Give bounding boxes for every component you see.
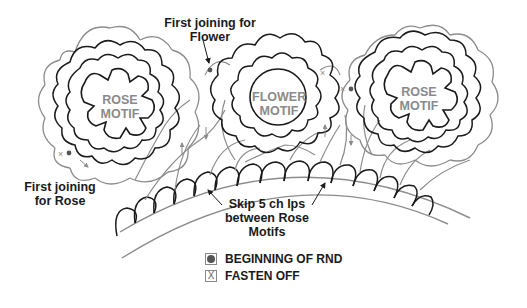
first-joining-rose-label: First joining for Rose bbox=[20, 180, 100, 208]
legend-item-beginning: BEGINNING OF RND bbox=[205, 250, 342, 267]
x-mark-icon: X bbox=[205, 270, 217, 282]
right-rose-label: ROSE MOTIF bbox=[393, 85, 445, 113]
arrow-diag-icon bbox=[80, 160, 88, 167]
beginning-of-round-marker-left bbox=[67, 151, 72, 156]
first-joining-flower-label: First joining for Flower bbox=[150, 16, 270, 44]
fasten-off-mark-right: × bbox=[340, 84, 345, 94]
skip-loops-label: Skip 5 ch lps between Rose Motifs bbox=[222, 197, 312, 239]
legend-item-fasten-off: X FASTEN OFF bbox=[205, 267, 342, 284]
flower-label: FLOWER MOTIF bbox=[252, 90, 306, 118]
fasten-off-mark-flower: × bbox=[320, 68, 325, 78]
leader-skip-left bbox=[208, 190, 222, 205]
left-rose-label: ROSE MOTIF bbox=[95, 93, 145, 121]
fasten-off-mark-left: × bbox=[58, 149, 63, 159]
filled-circle-icon bbox=[205, 253, 217, 265]
beginning-of-round-marker-flower bbox=[208, 68, 213, 73]
legend: BEGINNING OF RND X FASTEN OFF bbox=[205, 250, 342, 284]
leader-skip-right bbox=[312, 183, 325, 205]
beginning-of-round-marker-right bbox=[349, 87, 354, 92]
